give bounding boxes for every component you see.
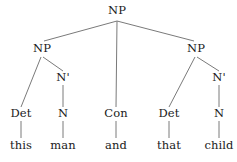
tree-edge-root-to-np-right <box>117 21 194 41</box>
tree-leaf-word-3: and <box>105 140 127 152</box>
tree-leaf-word-2: man <box>50 140 75 152</box>
tree-node-np-left: NP <box>33 43 51 55</box>
tree-edge-np-left-to-nbar <box>43 57 63 71</box>
tree-edge-np-right-to-det <box>169 57 195 107</box>
tree-node-root-np: NP <box>108 5 126 17</box>
tree-node-pos-n-1: N <box>58 108 68 120</box>
tree-node-nbar-left: N' <box>56 72 69 84</box>
tree-edge-root-to-np-left <box>44 21 117 41</box>
tree-leaf-word-5: child <box>204 140 233 152</box>
tree-edge-root-to-con <box>116 21 117 107</box>
tree-node-pos-det-2: Det <box>159 108 180 120</box>
tree-node-nbar-right: N' <box>212 72 225 84</box>
tree-edge-np-right-to-nbar <box>197 57 219 71</box>
tree-node-pos-n-2: N <box>214 108 224 120</box>
tree-leaf-word-4: that <box>157 140 181 152</box>
syntax-tree-figure: NP NP NP N' N' Det N Con Det N this man … <box>0 0 237 162</box>
tree-node-pos-det-1: Det <box>11 108 32 120</box>
tree-node-pos-con: Con <box>104 108 127 120</box>
tree-edge-np-left-to-det <box>21 57 41 107</box>
tree-leaf-word-1: this <box>10 140 32 152</box>
tree-node-np-right: NP <box>187 43 205 55</box>
